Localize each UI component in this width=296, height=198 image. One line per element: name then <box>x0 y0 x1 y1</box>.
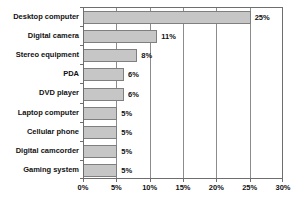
bar-value-label: 5% <box>121 167 132 175</box>
x-tick-mark <box>250 179 251 182</box>
x-tick-mark <box>116 179 117 182</box>
bar <box>84 164 117 177</box>
gridline <box>250 8 251 178</box>
category-label: Cellular phone <box>0 122 79 141</box>
x-tick-label: 20% <box>201 183 231 192</box>
x-tick-label: 10% <box>135 183 165 192</box>
y-tick-mark <box>80 178 83 179</box>
gridline <box>183 8 184 178</box>
bar-value-label: 5% <box>121 148 132 156</box>
plot-area: 25%11%8%6%6%5%5%5%5% <box>83 7 283 179</box>
x-tick-mark <box>216 179 217 182</box>
category-label: Gaming system <box>0 160 79 179</box>
x-tick-label: 5% <box>101 183 131 192</box>
gridline <box>216 8 217 178</box>
x-tick-label: 15% <box>168 183 198 192</box>
y-tick-mark <box>80 7 83 8</box>
category-label: Desktop computer <box>0 7 79 26</box>
y-tick-mark <box>80 45 83 46</box>
bar <box>84 145 117 158</box>
bar-value-label: 11% <box>161 33 176 41</box>
y-tick-mark <box>80 26 83 27</box>
category-label: Laptop computer <box>0 103 79 122</box>
bar <box>84 30 157 43</box>
x-tick-mark <box>183 179 184 182</box>
x-tick-label: 30% <box>268 183 296 192</box>
bar <box>84 49 137 62</box>
x-tick-label: 25% <box>235 183 265 192</box>
bar <box>84 88 124 101</box>
bar <box>84 126 117 139</box>
y-tick-mark <box>80 122 83 123</box>
category-label: Digital camera <box>0 26 79 45</box>
category-label: Digital camcorder <box>0 141 79 160</box>
bar <box>84 68 124 81</box>
bar-value-label: 25% <box>255 14 270 22</box>
bar-value-label: 6% <box>128 71 139 79</box>
category-axis-labels: Desktop computerDigital cameraStereo equ… <box>0 7 79 179</box>
bar-value-label: 8% <box>141 52 152 60</box>
bar-chart: Desktop computerDigital cameraStereo equ… <box>0 0 296 198</box>
category-label: DVD player <box>0 83 79 102</box>
x-tick-mark <box>150 179 151 182</box>
bar-value-label: 5% <box>121 129 132 137</box>
bar-value-label: 6% <box>128 91 139 99</box>
y-tick-mark <box>80 160 83 161</box>
x-tick-label: 0% <box>68 183 98 192</box>
category-label: PDA <box>0 64 79 83</box>
bar <box>84 11 251 24</box>
y-tick-mark <box>80 103 83 104</box>
y-tick-mark <box>80 141 83 142</box>
category-label: Stereo equipment <box>0 45 79 64</box>
y-tick-mark <box>80 83 83 84</box>
x-tick-mark <box>83 179 84 182</box>
y-tick-mark <box>80 64 83 65</box>
x-tick-mark <box>282 179 283 182</box>
bar <box>84 107 117 120</box>
bar-value-label: 5% <box>121 110 132 118</box>
